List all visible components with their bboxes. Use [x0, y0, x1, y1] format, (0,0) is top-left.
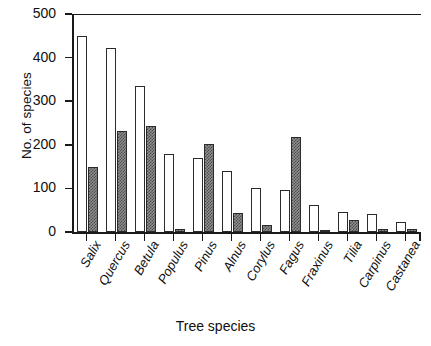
y-axis-tick-label: 300: [16, 92, 56, 109]
x-axis-tick: [115, 233, 117, 241]
bar-salix-hatched-bar: [88, 167, 99, 232]
bar-chart-figure: No. of species 0100200300400500 Tree spe…: [0, 0, 431, 346]
x-axis-tick: [318, 233, 320, 241]
y-axis-line: [72, 14, 74, 233]
y-axis-tick: [65, 231, 72, 233]
y-axis-tick: [65, 57, 72, 59]
x-axis-tick: [405, 233, 407, 241]
x-axis-tick: [202, 233, 204, 241]
x-axis-tick: [231, 233, 233, 241]
y-axis-title: No. of species: [19, 46, 34, 186]
x-axis-tick: [347, 233, 349, 241]
x-axis-tick: [376, 233, 378, 241]
y-axis-tick-label: 200: [16, 136, 56, 153]
y-axis-tick: [65, 144, 72, 146]
plot-top-rule: [72, 14, 421, 15]
x-axis-tick: [289, 233, 291, 241]
y-axis-tick-label: 0: [16, 223, 56, 240]
y-axis-tick-label: 400: [16, 49, 56, 66]
x-axis-tick: [260, 233, 262, 241]
x-axis-tick: [173, 233, 175, 241]
y-axis-tick: [65, 188, 72, 190]
bar-salix-white-bar: [77, 36, 88, 232]
y-axis-tick: [65, 100, 72, 102]
x-axis-tick: [86, 233, 88, 241]
x-axis-tick: [144, 233, 146, 241]
y-axis-tick: [65, 13, 72, 15]
y-axis-tick-label: 500: [16, 5, 56, 22]
y-axis-tick-label: 100: [16, 179, 56, 196]
